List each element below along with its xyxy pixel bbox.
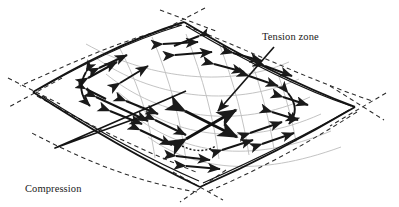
tension-zone-label: Tension zone xyxy=(262,31,319,44)
compression-zone-label: Compression zone (“ring”) xyxy=(25,158,82,207)
figure-canvas: Tension zone Compression zone (“ring”) xyxy=(0,0,399,207)
edge-top-left xyxy=(33,22,184,92)
compression-zone-label-line1: Compression xyxy=(25,183,82,196)
